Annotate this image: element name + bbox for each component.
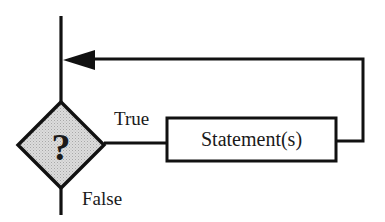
arrowhead-icon: [63, 50, 95, 70]
while-loop-flowchart: ? True Statement(s) False: [0, 0, 385, 222]
statement-label: Statement(s): [201, 128, 302, 151]
false-label: False: [82, 188, 122, 209]
decision-symbol: ?: [52, 126, 71, 168]
true-label: True: [114, 108, 149, 129]
flowchart-svg: ? True Statement(s) False: [0, 0, 385, 222]
